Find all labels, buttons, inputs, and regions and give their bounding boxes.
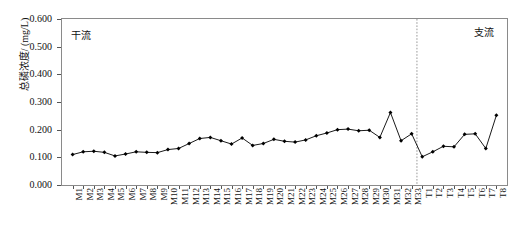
x-tick-label: M19	[266, 188, 275, 205]
x-tick-mark	[337, 186, 338, 189]
x-tick-label: M2	[86, 188, 95, 201]
data-point-marker	[261, 142, 265, 146]
x-tick-label: T4	[457, 188, 466, 198]
data-point-marker	[325, 131, 329, 135]
x-tick-mark	[327, 186, 328, 189]
x-tick-label: T5	[467, 188, 476, 198]
y-tick-mark	[57, 130, 61, 131]
data-point-marker	[420, 155, 424, 159]
x-tick-label: M3	[96, 188, 105, 201]
x-tick-mark	[189, 186, 190, 189]
x-tick-mark	[496, 186, 497, 189]
data-point-marker	[92, 149, 96, 153]
series-line-svg	[62, 19, 507, 185]
x-tick-mark	[147, 186, 148, 189]
x-tick-label: M7	[139, 188, 148, 201]
x-tick-mark	[306, 186, 307, 189]
x-tick-mark	[157, 186, 158, 189]
x-tick-mark	[232, 186, 233, 189]
data-point-marker	[494, 113, 498, 117]
data-point-marker	[208, 135, 212, 139]
x-tick-label: M33	[414, 188, 423, 205]
x-tick-label: M6	[128, 188, 137, 201]
x-tick-label: M4	[107, 188, 116, 201]
x-tick-mark	[401, 186, 402, 189]
x-tick-label: T3	[446, 188, 455, 198]
x-tick-label: M25	[329, 188, 338, 205]
x-tick-mark	[348, 186, 349, 189]
x-tick-label: M30	[382, 188, 391, 205]
x-tick-label: T2	[435, 188, 444, 198]
data-point-marker	[198, 137, 202, 141]
x-tick-mark	[253, 186, 254, 189]
region-label-tributary: 支流	[474, 24, 494, 39]
data-point-marker	[431, 150, 435, 154]
x-tick-label: T6	[478, 188, 487, 198]
y-tick-mark	[57, 74, 61, 75]
x-tick-label: M10	[170, 188, 179, 205]
x-tick-mark	[412, 186, 413, 189]
x-tick-mark	[104, 186, 105, 189]
x-tick-mark	[369, 186, 370, 189]
x-tick-label: M15	[223, 188, 232, 205]
x-tick-mark	[316, 186, 317, 189]
x-tick-label: M20	[276, 188, 285, 205]
x-tick-mark	[390, 186, 391, 189]
data-point-marker	[71, 153, 75, 157]
x-tick-label: M26	[340, 188, 349, 205]
x-tick-label: M9	[160, 188, 169, 201]
x-tick-mark	[83, 186, 84, 189]
y-tick-mark	[57, 47, 61, 48]
x-tick-label: M18	[255, 188, 264, 205]
y-tick-mark	[57, 157, 61, 158]
y-tick-mark	[57, 19, 61, 20]
y-axis-tick-labels: 0.6000.5000.4000.3000.2000.1000.000	[0, 0, 52, 234]
x-tick-label: M8	[149, 188, 158, 201]
y-tick-mark	[57, 102, 61, 103]
x-tick-mark	[136, 186, 137, 189]
x-tick-label: M32	[404, 188, 413, 205]
y-tick-label: 0.300	[12, 97, 52, 107]
y-tick-label: 0.200	[12, 125, 52, 135]
x-tick-mark	[221, 186, 222, 189]
chart-figure: 总磷浓度/ (mg/L) 0.6000.5000.4000.3000.2000.…	[0, 0, 523, 234]
x-tick-label: M17	[245, 188, 254, 205]
data-point-marker	[124, 152, 128, 156]
data-point-marker	[134, 150, 138, 154]
x-tick-mark	[422, 186, 423, 189]
x-tick-label: T8	[499, 188, 508, 198]
data-point-marker	[314, 134, 318, 138]
x-tick-mark	[454, 186, 455, 189]
x-tick-label: M21	[287, 188, 296, 205]
x-tick-mark	[242, 186, 243, 189]
x-tick-label: M31	[393, 188, 402, 205]
x-axis-tick-labels: M1M2M3M4M5M6M7M8M9M10M11M12M13M14M15M16M…	[61, 188, 508, 234]
data-point-marker	[441, 144, 445, 148]
x-tick-mark	[475, 186, 476, 189]
x-tick-mark	[285, 186, 286, 189]
x-tick-label: M1	[75, 188, 84, 201]
x-tick-mark	[359, 186, 360, 189]
x-tick-label: M24	[319, 188, 328, 205]
x-tick-label: M5	[117, 188, 126, 201]
x-tick-label: M22	[298, 188, 307, 205]
x-tick-label: M14	[213, 188, 222, 205]
x-tick-mark	[263, 186, 264, 189]
data-point-marker	[219, 139, 223, 143]
data-point-marker	[335, 128, 339, 132]
x-tick-label: M29	[372, 188, 381, 205]
data-point-marker	[113, 154, 117, 158]
x-tick-label: T1	[425, 188, 434, 198]
x-tick-label: T7	[488, 188, 497, 198]
region-label-mainstream: 干流	[71, 27, 91, 42]
x-tick-mark	[274, 186, 275, 189]
data-point-marker	[102, 150, 106, 154]
x-tick-mark	[433, 186, 434, 189]
data-point-marker	[357, 129, 361, 133]
data-point-marker	[272, 137, 276, 141]
x-tick-mark	[200, 186, 201, 189]
data-point-marker	[81, 150, 85, 154]
x-tick-mark	[168, 186, 169, 189]
x-tick-label: M16	[234, 188, 243, 205]
data-point-marker	[346, 127, 350, 131]
